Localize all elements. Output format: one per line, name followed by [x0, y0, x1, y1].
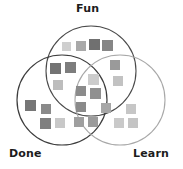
venn-item-square [40, 118, 51, 129]
venn-item-square [114, 118, 124, 128]
venn-item-square [76, 41, 86, 51]
venn-item-square [90, 88, 101, 99]
venn-item-square [101, 103, 111, 113]
venn-canvas [0, 0, 183, 169]
venn-item-square [62, 42, 71, 51]
venn-label-done: Done [9, 148, 42, 159]
venn-item-square [88, 117, 98, 127]
venn-item-square [102, 40, 113, 51]
venn-item-square [113, 76, 123, 86]
venn-item-square [74, 117, 84, 127]
venn-item-square [25, 100, 36, 111]
venn-item-square [65, 62, 76, 73]
venn-item-square [110, 60, 120, 70]
venn-label-fun: Fun [76, 3, 99, 14]
venn-label-learn: Learn [133, 148, 169, 159]
venn-item-square [50, 63, 61, 74]
venn-item-square [89, 39, 100, 50]
venn-item-square [53, 80, 63, 90]
venn-diagram: Fun Done Learn [0, 0, 183, 169]
venn-item-square [41, 104, 51, 114]
venn-item-square [126, 104, 136, 114]
venn-item-square [128, 118, 138, 128]
venn-item-square [76, 86, 86, 96]
venn-item-square [55, 118, 65, 128]
venn-item-square [88, 74, 99, 85]
venn-item-square [76, 102, 86, 112]
